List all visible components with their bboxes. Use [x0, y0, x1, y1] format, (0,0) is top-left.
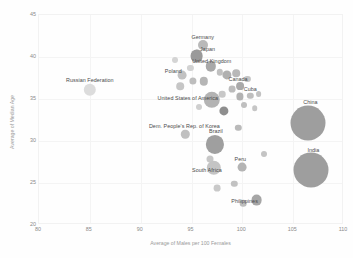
bubble-point-unlabeled[interactable] — [252, 105, 258, 111]
bubble-point-unlabeled[interactable] — [219, 91, 226, 98]
bubble-point-unlabeled[interactable] — [172, 57, 178, 63]
gridline-horizontal — [39, 141, 342, 142]
bubble-point[interactable] — [251, 194, 262, 205]
gridline-horizontal — [39, 99, 342, 100]
bubble-point[interactable] — [236, 82, 244, 90]
y-axis-title: Average of Median Age — [9, 82, 15, 162]
x-axis-title: Average of Males per 100 Females — [38, 240, 343, 246]
bubble-point-unlabeled[interactable] — [219, 106, 228, 115]
bubble-point[interactable] — [204, 92, 220, 108]
bubble-point-unlabeled[interactable] — [256, 91, 262, 97]
point-label: Brazil — [209, 128, 223, 134]
bubble-point-unlabeled[interactable] — [261, 151, 267, 157]
bubble-chart: GermanyJapanUnited KingdomPolandCanadaCu… — [0, 0, 353, 258]
gridline-vertical — [192, 15, 193, 223]
x-axis-tick: 90 — [137, 226, 143, 232]
gridline-vertical — [141, 15, 142, 223]
x-axis-tick: 100 — [237, 226, 246, 232]
y-axis-tick: 45 — [30, 11, 36, 17]
bubble-point-unlabeled[interactable] — [241, 102, 247, 108]
x-axis-tick: 85 — [86, 226, 92, 232]
bubble-point-unlabeled[interactable] — [244, 76, 250, 82]
y-axis-tick: 25 — [30, 179, 36, 185]
plot-area: GermanyJapanUnited KingdomPolandCanadaCu… — [38, 14, 343, 224]
gridline-vertical — [90, 15, 91, 223]
bubble-point-unlabeled[interactable] — [240, 200, 247, 207]
y-axis-tick: 30 — [30, 137, 36, 143]
bubble-point[interactable] — [294, 152, 329, 187]
gridline-horizontal — [39, 183, 342, 184]
bubble-point-unlabeled[interactable] — [247, 92, 253, 98]
bubble-point[interactable] — [206, 135, 224, 153]
bubble-point[interactable] — [198, 40, 208, 50]
bubble-point-unlabeled[interactable] — [187, 65, 193, 71]
y-axis-tick: 40 — [30, 53, 36, 59]
bubble-point-unlabeled[interactable] — [235, 124, 241, 130]
x-axis-tick: 95 — [188, 226, 194, 232]
bubble-point-unlabeled[interactable] — [229, 86, 236, 93]
bubble-point[interactable] — [291, 105, 326, 140]
bubble-point[interactable] — [190, 50, 203, 63]
bubble-point[interactable] — [84, 84, 96, 96]
bubble-point-unlabeled[interactable] — [214, 185, 221, 192]
bubble-point[interactable] — [222, 70, 231, 79]
bubble-point[interactable] — [181, 130, 189, 138]
bubble-point-unlabeled[interactable] — [232, 69, 240, 77]
y-axis-tick: 35 — [30, 95, 36, 101]
bubble-point-unlabeled[interactable] — [199, 77, 207, 85]
bubble-point[interactable] — [207, 161, 221, 175]
bubble-point-unlabeled[interactable] — [189, 77, 196, 84]
y-axis-tick: 20 — [30, 221, 36, 227]
point-label: Peru — [235, 156, 247, 162]
bubble-point-unlabeled[interactable] — [196, 104, 202, 110]
bubble-point-unlabeled[interactable] — [231, 181, 237, 187]
bubble-point[interactable] — [178, 71, 187, 80]
gridline-vertical — [242, 15, 243, 223]
x-axis-tick: 110 — [339, 226, 348, 232]
point-label: Dem. People's Rep. of Korea — [149, 123, 220, 129]
x-axis-tick: 105 — [288, 226, 297, 232]
bubble-point-unlabeled[interactable] — [177, 83, 185, 91]
bubble-point[interactable] — [206, 61, 216, 71]
bubble-point[interactable] — [238, 163, 247, 172]
